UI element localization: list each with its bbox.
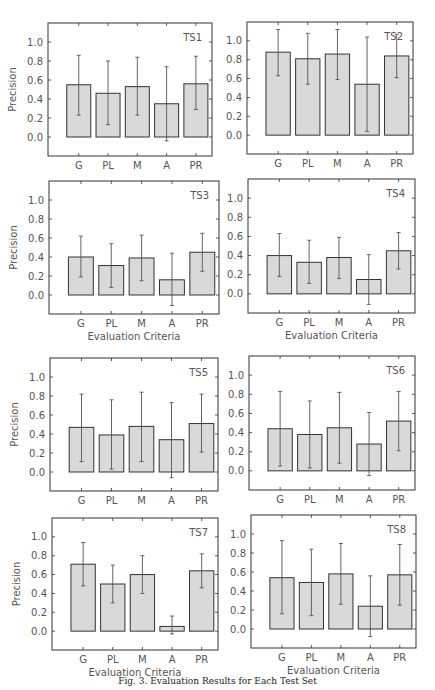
x-axis-ticks: GPLMAPR (77, 181, 209, 329)
svg-text:0.8: 0.8 (226, 54, 242, 65)
svg-text:M: M (333, 158, 342, 169)
chart-panel-ts5: 0.00.20.40.60.81.0GPLMAPRTS5Precision (8, 354, 222, 525)
svg-text:1.0: 1.0 (227, 193, 243, 204)
svg-text:0.0: 0.0 (31, 626, 47, 637)
svg-text:A: A (364, 158, 371, 169)
svg-text:1.0: 1.0 (28, 195, 44, 206)
svg-text:0.8: 0.8 (28, 214, 44, 225)
panel-title: TS8 (386, 524, 406, 535)
svg-text:0.8: 0.8 (29, 391, 45, 402)
svg-text:0.2: 0.2 (230, 605, 246, 616)
svg-text:1.0: 1.0 (228, 370, 244, 381)
svg-text:0.0: 0.0 (226, 130, 242, 141)
svg-text:PL: PL (303, 317, 315, 328)
svg-text:0.4: 0.4 (31, 588, 47, 599)
svg-text:0.8: 0.8 (227, 212, 243, 223)
svg-text:A: A (169, 654, 176, 665)
svg-text:G: G (278, 652, 286, 663)
svg-text:PR: PR (189, 160, 202, 171)
y-axis-label: Precision (7, 67, 18, 112)
svg-text:PR: PR (393, 652, 406, 663)
svg-text:G: G (79, 654, 87, 665)
svg-text:1.0: 1.0 (27, 37, 43, 48)
svg-text:0.4: 0.4 (227, 250, 243, 261)
svg-text:0.8: 0.8 (228, 389, 244, 400)
svg-text:M: M (337, 652, 346, 663)
svg-text:0.2: 0.2 (27, 113, 43, 124)
svg-text:0.2: 0.2 (226, 111, 242, 122)
svg-text:0.6: 0.6 (28, 233, 44, 244)
svg-text:PR: PR (392, 317, 405, 328)
y-axis-label: Precision (9, 402, 20, 447)
svg-text:0.0: 0.0 (230, 624, 246, 635)
svg-text:G: G (274, 158, 282, 169)
error-bars (278, 391, 401, 475)
svg-text:0.2: 0.2 (228, 446, 244, 457)
chart-panel-ts6: 0.00.20.40.60.81.0GPLMAPRTS6 (207, 352, 419, 524)
svg-text:0.2: 0.2 (227, 269, 243, 280)
svg-text:PR: PR (392, 494, 405, 505)
svg-text:A: A (163, 160, 170, 171)
chart-panel-ts2: 0.00.20.40.60.81.0GPLMAPRTS2 (205, 18, 417, 188)
x-axis-label: Evaluation Criteria (285, 330, 378, 341)
svg-text:G: G (78, 495, 86, 506)
svg-text:0.2: 0.2 (31, 607, 47, 618)
svg-text:0.4: 0.4 (228, 427, 244, 438)
svg-text:PL: PL (106, 495, 118, 506)
panel-title: TS5 (188, 367, 208, 378)
chart-panel-ts4: 0.00.20.40.60.81.0GPLMAPRTS4Evaluation C… (206, 175, 419, 347)
svg-text:0.0: 0.0 (228, 465, 244, 476)
svg-text:1.0: 1.0 (230, 529, 246, 540)
figure-caption: Fig. 3. Evaluation Results for Each Test… (0, 676, 435, 686)
svg-text:PR: PR (390, 158, 403, 169)
panel-title: TS1 (182, 32, 202, 43)
panel-title: TS6 (385, 365, 405, 376)
x-axis-label: Evaluation Criteria (287, 665, 380, 676)
svg-text:1.0: 1.0 (31, 531, 47, 542)
svg-text:PL: PL (304, 494, 316, 505)
svg-text:0.0: 0.0 (27, 132, 43, 143)
svg-text:A: A (367, 652, 374, 663)
panel-title: TS4 (385, 188, 405, 199)
svg-text:0.8: 0.8 (230, 548, 246, 559)
x-axis-label: Evaluation Criteria (88, 331, 181, 342)
evaluation-figure: 0.00.20.40.60.81.0GPLMAPRTS1Precision 0.… (0, 0, 435, 690)
svg-text:0.4: 0.4 (29, 429, 45, 440)
svg-text:A: A (169, 318, 176, 329)
chart-panel-ts8: 0.00.20.40.60.81.0GPLMAPRTS8Evaluation C… (209, 511, 420, 682)
svg-text:G: G (75, 160, 83, 171)
svg-text:PL: PL (105, 318, 117, 329)
panel-title: TS7 (188, 527, 208, 538)
svg-text:0.2: 0.2 (28, 271, 44, 282)
svg-text:A: A (168, 495, 175, 506)
svg-text:0.6: 0.6 (228, 408, 244, 419)
svg-text:M: M (133, 160, 142, 171)
svg-text:PL: PL (302, 158, 314, 169)
svg-text:0.4: 0.4 (230, 586, 246, 597)
svg-text:0.0: 0.0 (29, 467, 45, 478)
svg-text:0.0: 0.0 (28, 290, 44, 301)
svg-text:M: M (137, 318, 146, 329)
chart-panel-ts7: 0.00.20.40.60.81.0GPLMAPRTS7PrecisionEva… (10, 514, 222, 684)
x-axis-ticks: GPLMAPR (275, 179, 405, 328)
y-axis-label: Precision (11, 562, 22, 607)
svg-text:G: G (275, 317, 283, 328)
svg-text:0.0: 0.0 (227, 288, 243, 299)
svg-text:G: G (276, 494, 284, 505)
svg-text:PR: PR (195, 654, 208, 665)
svg-text:1.0: 1.0 (29, 372, 45, 383)
chart-panel-ts1: 0.00.20.40.60.81.0GPLMAPRTS1Precision (6, 19, 216, 190)
svg-text:M: M (137, 495, 146, 506)
svg-text:M: M (335, 317, 344, 328)
svg-text:A: A (366, 494, 373, 505)
svg-text:0.6: 0.6 (29, 410, 45, 421)
svg-text:0.6: 0.6 (226, 73, 242, 84)
svg-text:0.4: 0.4 (226, 92, 242, 103)
svg-text:PL: PL (107, 654, 119, 665)
svg-text:0.4: 0.4 (27, 94, 43, 105)
svg-text:PL: PL (102, 160, 114, 171)
svg-text:1.0: 1.0 (226, 35, 242, 46)
svg-text:M: M (335, 494, 344, 505)
svg-text:0.6: 0.6 (31, 569, 47, 580)
svg-text:M: M (138, 654, 147, 665)
